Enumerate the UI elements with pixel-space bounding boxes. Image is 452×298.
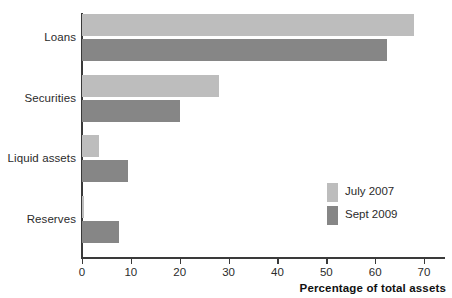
bar-reserves-july-2007 bbox=[82, 196, 84, 218]
legend-swatch-sept-2009 bbox=[327, 206, 338, 225]
x-axis-tick-60 bbox=[375, 258, 376, 264]
x-axis-title: Percentage of total assets bbox=[0, 282, 446, 294]
x-axis-tick-label-20: 20 bbox=[173, 266, 186, 278]
x-axis-line bbox=[81, 257, 445, 259]
bar-securities-sept-2009 bbox=[82, 100, 180, 122]
y-axis-label-loans: Loans bbox=[2, 31, 76, 43]
x-axis-tick-label-70: 70 bbox=[418, 266, 431, 278]
x-axis-tick-label-60: 60 bbox=[369, 266, 382, 278]
plot-area bbox=[82, 14, 424, 257]
x-axis-tick-label-10: 10 bbox=[124, 266, 137, 278]
x-axis-tick-label-0: 0 bbox=[79, 266, 85, 278]
y-axis-label-securities: Securities bbox=[2, 92, 76, 104]
x-axis-tick-0 bbox=[82, 258, 83, 264]
y-axis-labels: Loans Securities Liquid assets Reserves bbox=[0, 14, 76, 257]
bar-liquid-assets-july-2007 bbox=[82, 135, 99, 157]
bar-chart: Loans Securities Liquid assets Reserves … bbox=[0, 0, 452, 298]
legend-swatch-july-2007 bbox=[327, 183, 338, 202]
bar-securities-july-2007 bbox=[82, 75, 219, 97]
y-axis-label-liquid-assets: Liquid assets bbox=[2, 152, 76, 164]
x-axis-tick-10 bbox=[131, 258, 132, 264]
x-axis-tick-label-30: 30 bbox=[222, 266, 235, 278]
legend-label-sept-2009: Sept 2009 bbox=[345, 208, 397, 220]
x-axis-tick-70 bbox=[424, 258, 425, 264]
x-axis-tick-label-40: 40 bbox=[271, 266, 284, 278]
x-axis-tick-label-50: 50 bbox=[320, 266, 333, 278]
x-axis-tick-40 bbox=[277, 258, 278, 264]
legend-label-july-2007: July 2007 bbox=[345, 185, 394, 197]
x-axis-tick-20 bbox=[180, 258, 181, 264]
x-axis-tick-30 bbox=[229, 258, 230, 264]
bar-reserves-sept-2009 bbox=[82, 221, 119, 243]
y-axis-label-reserves: Reserves bbox=[2, 213, 76, 225]
bar-loans-july-2007 bbox=[82, 14, 414, 36]
bar-liquid-assets-sept-2009 bbox=[82, 160, 128, 182]
bar-loans-sept-2009 bbox=[82, 39, 387, 61]
x-axis-tick-50 bbox=[326, 258, 327, 264]
